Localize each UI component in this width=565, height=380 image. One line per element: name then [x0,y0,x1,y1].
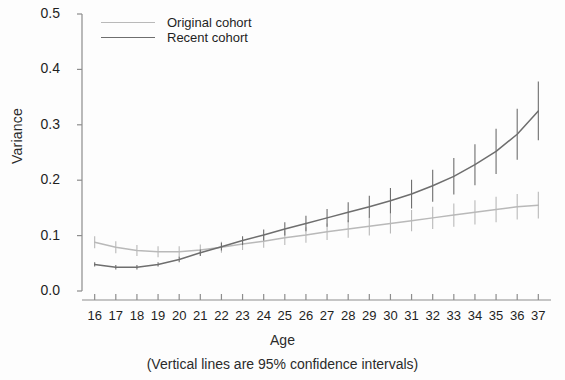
y-tick-label: 0.5 [16,5,60,21]
legend-swatch-recent-cohort [101,37,155,38]
y-tick-label: 0.1 [16,227,60,243]
y-axis-title: Variance [9,86,25,186]
legend-label-original-cohort: Original cohort [167,15,252,30]
y-tick-label: 0.0 [16,282,60,298]
chart-figure: 0.00.10.20.30.40.5 161718192021222324252… [0,0,565,380]
legend-swatch-original-cohort [101,22,155,23]
y-tick-label: 0.4 [16,60,60,76]
x-tick-label: 37 [525,308,551,323]
legend-item-original-cohort: Original cohort [101,15,252,30]
y-axis-tick-labels: 0.00.10.20.30.40.5 [16,0,60,380]
plot-canvas [0,0,565,380]
legend-item-recent-cohort: Recent cohort [101,30,252,45]
figure-caption: (Vertical lines are 95% confidence inter… [0,356,565,372]
x-axis-title: Age [0,332,565,348]
series-original-cohort [95,192,539,257]
chart-legend: Original cohort Recent cohort [101,15,252,45]
series-line [95,111,539,267]
series-recent-cohort [95,82,539,270]
series-line [95,205,539,252]
legend-label-recent-cohort: Recent cohort [167,30,248,45]
